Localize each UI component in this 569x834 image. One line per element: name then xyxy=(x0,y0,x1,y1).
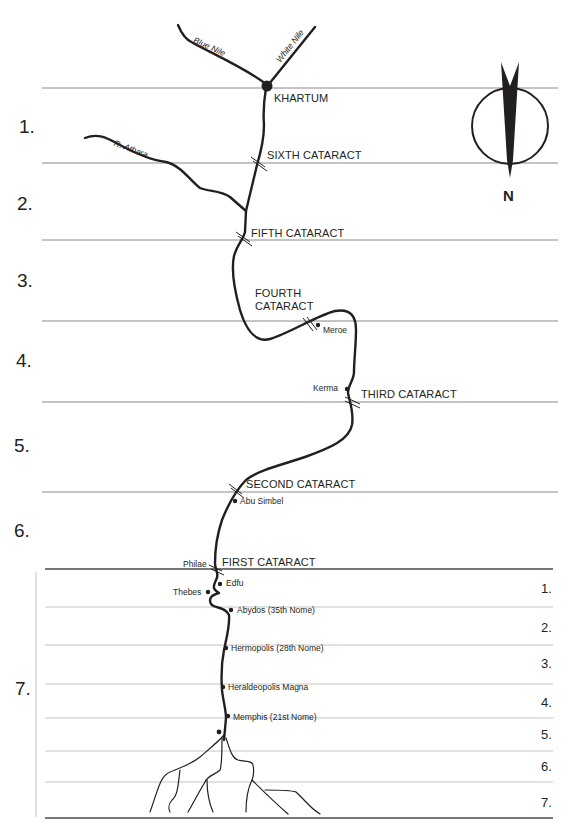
third-cataract-label: THIRD CATARACT xyxy=(361,388,457,400)
fourth-cataract-label-1: FOURTH xyxy=(255,287,301,299)
nome-region-2-label: 2. xyxy=(541,620,552,635)
edfu-marker xyxy=(218,582,222,586)
region-4-label: 4. xyxy=(16,350,32,372)
hermopolis-label: Hermopolis (28th Nome) xyxy=(231,643,324,653)
hermopolis-marker xyxy=(224,646,228,650)
abu-simbel-marker xyxy=(233,499,237,503)
heraldeopolis-label: Heraldeopolis Magna xyxy=(228,682,308,692)
lower-region-dividers xyxy=(45,607,553,782)
fourth-cataract-label-2: CATARACT xyxy=(255,300,313,312)
region-5-label: 5. xyxy=(14,435,30,457)
nome-region-5-label: 5. xyxy=(541,727,552,742)
kerma-label: Kerma xyxy=(313,383,338,393)
fifth-cataract-label: FIFTH CATARACT xyxy=(251,227,344,239)
thebes-label: Thebes xyxy=(173,587,201,597)
kerma-marker xyxy=(345,387,349,391)
nome-region-7-label: 7. xyxy=(541,795,552,810)
nile-delta xyxy=(150,735,320,814)
khartum-marker xyxy=(262,81,273,92)
region-6-label: 6. xyxy=(14,520,30,542)
khartum-label: KHARTUM xyxy=(274,92,328,104)
region-1-label: 1. xyxy=(19,116,35,138)
second-cataract-label: SECOND CATARACT xyxy=(246,478,355,490)
delta-marker xyxy=(217,730,222,735)
nome-region-1-label: 1. xyxy=(541,581,552,596)
first-cataract-label: FIRST CATARACT xyxy=(222,556,316,568)
edfu-label: Edfu xyxy=(226,578,244,588)
region-2-label: 2. xyxy=(17,193,33,215)
nome-region-6-label: 6. xyxy=(541,759,552,774)
abydos-marker xyxy=(229,608,233,612)
nome-region-4-label: 4. xyxy=(541,695,552,710)
cataract-marks xyxy=(209,157,360,575)
abydos-label: Abydos (35th Nome) xyxy=(237,605,315,615)
nile-map-canvas xyxy=(0,0,569,834)
compass-icon xyxy=(472,62,548,178)
abu-simbel-label: Abu Simbel xyxy=(240,496,283,506)
memphis-marker xyxy=(226,714,230,718)
nome-region-3-label: 3. xyxy=(541,656,552,671)
sixth-cataract-label: SIXTH CATARACT xyxy=(267,149,362,161)
memphis-label: Memphis (21st Nome) xyxy=(233,712,317,722)
compass-north-label: N xyxy=(503,187,514,204)
meroe-label: Meroe xyxy=(323,325,347,335)
philae-label: Philae xyxy=(183,559,207,569)
meroe-marker xyxy=(316,323,320,327)
thebes-marker xyxy=(206,590,210,594)
region-3-label: 3. xyxy=(17,270,33,292)
region-7-label: 7. xyxy=(15,678,31,700)
heraldeopolis-marker xyxy=(221,685,225,689)
